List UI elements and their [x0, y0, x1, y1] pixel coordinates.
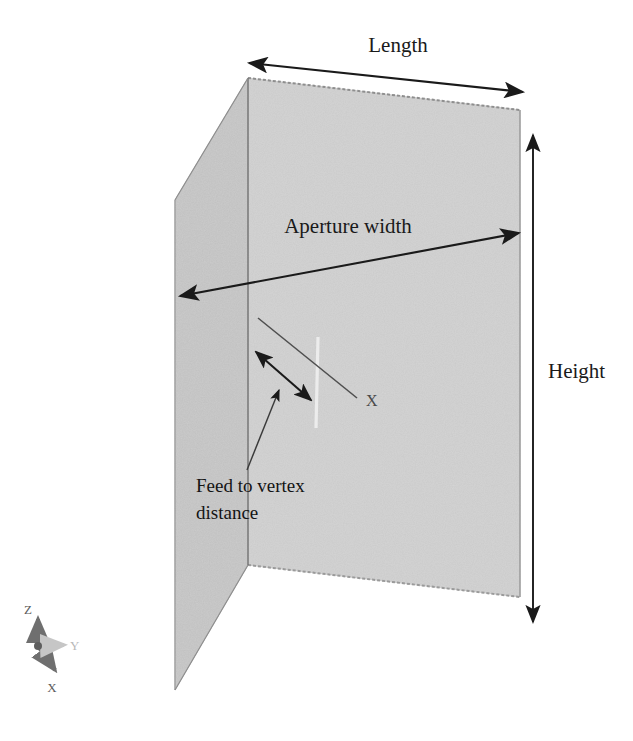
left-reflector-panel	[175, 78, 248, 690]
feed-dipole-icon	[316, 337, 318, 428]
coordinate-axis-triad: Z Y X	[24, 602, 80, 695]
z-axis-label: Z	[24, 602, 32, 617]
feed-to-vertex-label-line2: distance	[196, 502, 258, 523]
x-axis-label: X	[47, 680, 57, 695]
height-dimension: Height	[533, 135, 605, 622]
reflector-assembly	[175, 78, 520, 690]
aperture-width-label: Aperture width	[284, 214, 412, 238]
right-reflector-panel	[248, 78, 520, 597]
figure-root: Length Aperture width Height X Feed to v…	[0, 0, 633, 741]
x-axis-icon	[38, 646, 55, 670]
corner-reflector-diagram: Length Aperture width Height X Feed to v…	[0, 0, 633, 741]
x-ray-label: X	[366, 392, 378, 409]
axis-origin-icon	[34, 642, 42, 650]
feed-to-vertex-label-line1: Feed to vertex	[196, 475, 305, 496]
y-axis-label: Y	[70, 638, 80, 653]
length-label: Length	[368, 33, 428, 57]
height-label: Height	[548, 359, 605, 383]
